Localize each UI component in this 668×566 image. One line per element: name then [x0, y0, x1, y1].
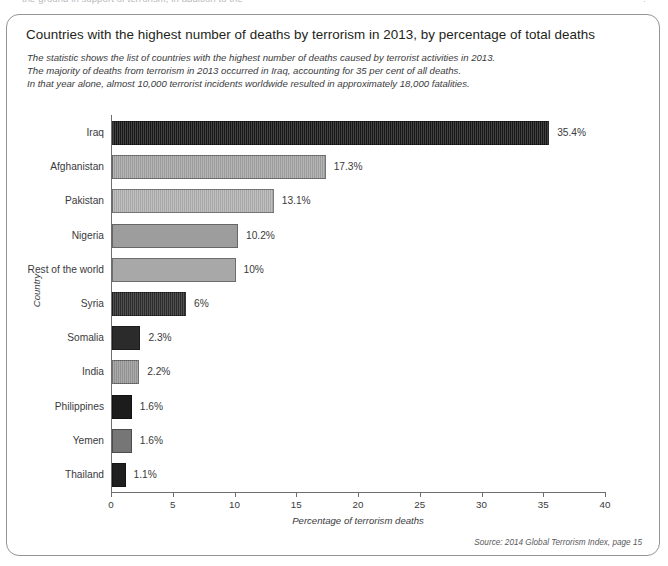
x-axis-tick	[235, 492, 236, 497]
bar	[112, 326, 140, 350]
x-axis-tick	[358, 492, 359, 497]
bar-value-label: 17.3%	[327, 155, 363, 179]
x-axis-tick	[173, 492, 174, 497]
x-axis-tick	[543, 492, 544, 497]
bar-value-label: 13.1%	[275, 189, 311, 213]
bar	[112, 258, 236, 282]
bar-row: Yemen1.6%	[111, 424, 605, 458]
bar-row: Syria6%	[111, 287, 605, 321]
bar-row: Pakistan13.1%	[111, 184, 605, 218]
x-axis-title: Percentage of terrorism deaths	[111, 515, 605, 526]
bar-value-label: 2.2%	[140, 360, 170, 384]
x-axis-tick	[420, 492, 421, 497]
x-axis-tick	[482, 492, 483, 497]
bar-category-label: Philippines	[55, 390, 111, 424]
bar-category-label: Yemen	[73, 424, 111, 458]
bar-value-label: 2.3%	[141, 326, 171, 350]
bar-value-label: 10.2%	[239, 224, 275, 248]
bar-category-label: Syria	[81, 287, 111, 321]
page-cut-off-text-right: .	[643, 0, 646, 4]
x-axis-tick	[605, 492, 606, 497]
bar-value-label: 1.6%	[133, 429, 163, 453]
bar	[112, 292, 186, 316]
bar-row: Somalia2.3%	[111, 321, 605, 355]
source-note: Source: 2014 Global Terrorism Index, pag…	[474, 538, 642, 547]
bar-category-label: Pakistan	[65, 184, 111, 218]
x-axis-tick-label: 0	[91, 499, 131, 510]
figure-card: Countries with the highest number of dea…	[6, 14, 660, 556]
bar-row: Afghanistan17.3%	[111, 150, 605, 184]
bar-value-label: 10%	[237, 258, 264, 282]
bar-row: Thailand1.1%	[111, 458, 605, 492]
bar-row: India2.2%	[111, 355, 605, 389]
x-axis-tick-label: 20	[338, 499, 378, 510]
bar-category-label: Nigeria	[72, 219, 111, 253]
bar-value-label: 6%	[187, 292, 209, 316]
bar	[112, 121, 549, 145]
bar-category-label: Somalia	[67, 321, 111, 355]
bar-chart-plot-area: Country Percentage of terrorism deaths 0…	[7, 15, 661, 557]
bar-category-label: Rest of the world	[28, 253, 111, 287]
x-axis-tick	[111, 492, 112, 497]
bar-category-label: Thailand	[65, 458, 111, 492]
x-axis-tick	[296, 492, 297, 497]
bar	[112, 155, 326, 179]
page-cut-off-text: the ground in support of terrorism, in a…	[22, 0, 646, 7]
x-axis-tick-label: 30	[462, 499, 502, 510]
x-axis-tick-label: 10	[215, 499, 255, 510]
x-axis-tick-label: 40	[585, 499, 625, 510]
bar-value-label: 35.4%	[550, 121, 586, 145]
x-axis-tick-label: 35	[523, 499, 563, 510]
bar-row: Iraq35.4%	[111, 116, 605, 150]
x-axis-tick-label: 25	[400, 499, 440, 510]
bar-value-label: 1.6%	[133, 395, 163, 419]
page-cut-off-text-left: the ground in support of terrorism, in a…	[22, 0, 243, 4]
bar	[112, 395, 132, 419]
bar	[112, 189, 274, 213]
bar-category-label: Iraq	[86, 116, 111, 150]
bar-row: Rest of the world10%	[111, 253, 605, 287]
bar	[112, 429, 132, 453]
bar-row: Nigeria10.2%	[111, 219, 605, 253]
bar-value-label: 1.1%	[127, 463, 157, 487]
x-axis-tick-label: 15	[276, 499, 316, 510]
x-axis-tick-label: 5	[153, 499, 193, 510]
bar	[112, 360, 139, 384]
bar	[112, 463, 126, 487]
bar-category-label: India	[82, 355, 111, 389]
bar-category-label: Afghanistan	[50, 150, 111, 184]
bar-row: Philippines1.6%	[111, 390, 605, 424]
bar	[112, 224, 238, 248]
